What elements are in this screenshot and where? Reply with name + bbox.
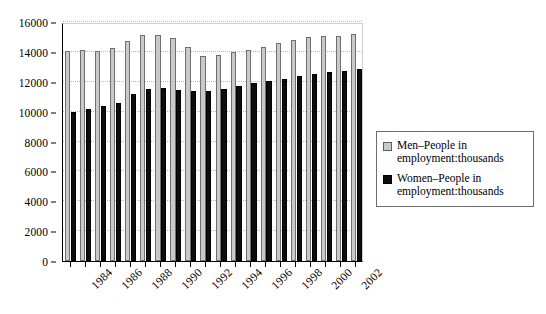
y-axis-tick-label: 10000 xyxy=(19,107,48,119)
y-axis-tick-mark xyxy=(51,262,56,263)
x-axis-tick-label: 1998 xyxy=(299,266,324,291)
bar-men xyxy=(246,50,251,261)
bar-group xyxy=(351,24,362,261)
bar-group xyxy=(200,24,211,261)
bar-women xyxy=(297,76,302,261)
bars-layer xyxy=(63,24,362,261)
bar-women xyxy=(101,106,106,261)
legend-entry: Women–People in employment:thousands xyxy=(383,172,527,198)
bar-men xyxy=(80,50,85,261)
bar-women xyxy=(342,71,347,261)
y-axis-tick-mark xyxy=(51,112,56,113)
y-axis-tick-label: 14000 xyxy=(19,47,48,59)
bar-group xyxy=(216,24,227,261)
y-axis-tick-mark xyxy=(51,52,56,53)
bar-men xyxy=(291,40,296,261)
x-axis-tick-label: 2002 xyxy=(359,266,384,291)
bar-men xyxy=(65,51,70,261)
bar-men xyxy=(200,56,205,261)
bar-women xyxy=(176,90,181,261)
bar-group xyxy=(291,24,302,261)
plot-area xyxy=(62,23,363,262)
bar-men xyxy=(95,51,100,261)
y-axis-tick-label: 6000 xyxy=(25,166,48,178)
bar-group xyxy=(155,24,166,261)
bar-men xyxy=(170,38,175,261)
y-axis-tick-mark xyxy=(51,23,56,24)
bar-men xyxy=(336,36,341,261)
bar-men xyxy=(276,43,281,261)
y-axis-tick-mark xyxy=(51,172,56,173)
bar-men xyxy=(231,52,236,261)
bar-men xyxy=(321,36,326,261)
x-axis-tick-label: 1992 xyxy=(209,266,234,291)
bar-women xyxy=(146,89,151,261)
x-axis-tick-label: 2000 xyxy=(329,266,354,291)
bar-group xyxy=(170,24,181,261)
bar-women xyxy=(251,83,256,261)
x-axis-tick-label: 1986 xyxy=(119,266,144,291)
bar-men xyxy=(351,34,356,261)
bar-group xyxy=(110,24,121,261)
bar-group xyxy=(231,24,242,261)
bar-men xyxy=(125,41,130,261)
employment-bar-chart: 0200040006000800010000120001400016000 19… xyxy=(0,0,546,314)
bar-men xyxy=(216,55,221,261)
bar-men xyxy=(110,48,115,261)
bar-group xyxy=(125,24,136,261)
bar-women xyxy=(221,89,226,261)
x-axis-tick-label: 1994 xyxy=(239,266,264,291)
bar-group xyxy=(140,24,151,261)
bar-group xyxy=(95,24,106,261)
bar-group xyxy=(80,24,91,261)
y-axis-tick-label: 12000 xyxy=(19,77,48,89)
x-axis-tick-label: 1996 xyxy=(269,266,294,291)
bar-women xyxy=(357,69,362,261)
bar-women xyxy=(131,94,136,261)
y-axis-tick-mark xyxy=(51,82,56,83)
legend-swatch-men-icon xyxy=(383,142,392,151)
bar-group xyxy=(336,24,347,261)
x-axis: 1984198619881990199219941996199820002002 xyxy=(62,266,382,314)
y-axis-tick-label: 16000 xyxy=(19,17,48,29)
bar-group xyxy=(321,24,332,261)
bar-women xyxy=(266,81,271,261)
bar-group xyxy=(306,24,317,261)
legend-label: Women–People in employment:thousands xyxy=(397,172,527,198)
y-axis-tick-mark xyxy=(51,202,56,203)
y-axis-tick-label: 0 xyxy=(42,256,48,268)
legend-label: Men–People in employment:thousands xyxy=(397,139,527,165)
y-axis-tick-mark xyxy=(51,142,56,143)
bar-women xyxy=(236,86,241,261)
bar-women xyxy=(86,109,91,261)
y-axis-tick-label: 4000 xyxy=(25,196,48,208)
bar-men xyxy=(261,47,266,261)
bar-men xyxy=(306,37,311,261)
bar-men xyxy=(155,35,160,261)
gridline xyxy=(63,21,362,22)
y-axis-tick-label: 8000 xyxy=(25,137,48,149)
bar-women xyxy=(191,91,196,261)
x-axis-tick-label: 1988 xyxy=(149,266,174,291)
x-axis-tick-label: 1990 xyxy=(179,266,204,291)
y-axis-tick-mark xyxy=(51,232,56,233)
bar-men xyxy=(140,35,145,261)
bar-women xyxy=(116,103,121,261)
x-axis-tick-label: 1984 xyxy=(88,266,113,291)
y-axis: 0200040006000800010000120001400016000 xyxy=(0,23,56,262)
bar-men xyxy=(185,47,190,261)
chart-legend: Men–People in employment:thousandsWomen–… xyxy=(376,131,534,207)
bar-group xyxy=(246,24,257,261)
bar-women xyxy=(312,74,317,261)
y-axis-tick-label: 2000 xyxy=(25,226,48,238)
bar-women xyxy=(206,91,211,261)
bar-women xyxy=(327,72,332,261)
bar-group xyxy=(261,24,272,261)
bar-group xyxy=(185,24,196,261)
bar-group xyxy=(65,24,76,261)
bar-women xyxy=(161,88,166,261)
bar-women xyxy=(71,112,76,261)
legend-entry: Men–People in employment:thousands xyxy=(383,139,527,165)
bar-women xyxy=(282,79,287,261)
legend-swatch-women-icon xyxy=(383,175,392,184)
